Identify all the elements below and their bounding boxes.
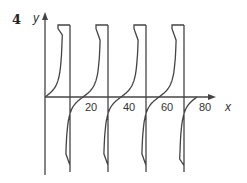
curve-branch [104,25,146,172]
x-axis-label: x [224,100,232,114]
curve-branch [66,25,108,172]
y-axis-arrow-icon [42,12,48,20]
x-tick-label: 20 [85,101,97,113]
x-tick-label: 80 [199,101,211,113]
x-tick-label: 40 [123,101,135,113]
x-axis-arrow-icon [208,94,216,100]
tangent-graph: y x 20406080 [0,0,247,183]
curve-branch [45,25,70,97]
curve-branch [180,25,197,172]
y-axis-label: y [32,11,40,25]
curve-branch [142,25,184,172]
x-tick-labels: 20406080 [85,101,211,113]
curve-branches [45,25,197,172]
x-tick-label: 60 [161,101,173,113]
